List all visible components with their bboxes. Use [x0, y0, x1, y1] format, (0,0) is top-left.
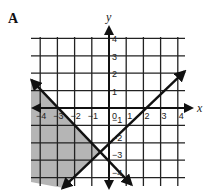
x-tick-label: 1: [127, 111, 132, 121]
x-tick-label: −4: [36, 111, 46, 121]
y-tick-label: −4: [112, 168, 122, 178]
x-tick-label: 2: [144, 111, 149, 121]
y-tick-label: 1: [112, 87, 117, 97]
y-tick-label: −1: [112, 115, 122, 125]
y-tick-label: −3: [112, 150, 122, 160]
x-tick-label: 4: [179, 111, 184, 121]
y-tick-label: 3: [112, 52, 117, 62]
y-axis-label: y: [105, 10, 112, 24]
x-axis-label: x: [196, 101, 203, 115]
x-tick-label: 3: [162, 111, 167, 121]
x-tick-label: −2: [70, 111, 80, 121]
y-tick-label: −2: [112, 133, 122, 143]
x-tick-label: −1: [88, 111, 98, 121]
coordinate-plane: xy −4−3−2−1012344321−1−2−3−4: [0, 0, 212, 192]
rising-line: [63, 71, 185, 188]
x-tick-label: −3: [53, 111, 63, 121]
y-tick-label: 2: [112, 69, 117, 79]
y-tick-label: 4: [112, 34, 117, 44]
